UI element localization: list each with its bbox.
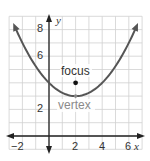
arrow-right-icon: [137, 133, 145, 139]
vertex-label: vertex: [58, 98, 91, 112]
focus-label: focus: [61, 64, 90, 78]
arrow-up-icon: [46, 14, 52, 22]
y-axis-label: y: [55, 14, 61, 26]
focus-point: [73, 80, 78, 85]
x-axis-label: x: [133, 140, 139, 152]
arrow-left-icon: [6, 133, 14, 139]
arrow-down-icon: [46, 146, 52, 154]
y-tick-2: 2: [37, 102, 43, 114]
x-tick-6: 6: [125, 140, 131, 152]
x-tick-2: 2: [72, 140, 78, 152]
x-tick-4: 4: [99, 140, 105, 152]
y-tick-6: 6: [37, 49, 43, 61]
x-tick-minus2: −2: [11, 140, 24, 152]
y-tick-8: 8: [37, 22, 43, 34]
parabola-graph: focus vertex 8 6 2 y −2 2 4 6 x: [0, 0, 150, 161]
